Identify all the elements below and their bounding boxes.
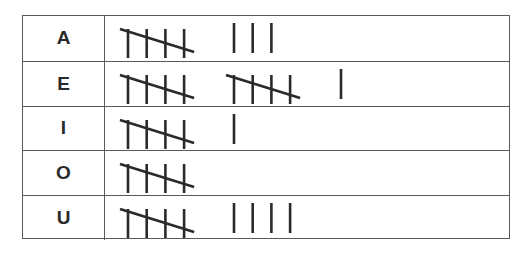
table-row: U — [23, 195, 509, 240]
row-label: A — [23, 16, 105, 61]
table-row: I — [23, 106, 509, 151]
tally-icon — [105, 107, 509, 151]
row-label: E — [23, 62, 105, 106]
table-row: O — [23, 150, 509, 195]
tally-icon — [105, 62, 509, 106]
tally-marks — [105, 16, 509, 61]
table-row: E — [23, 61, 509, 106]
tally-icon — [105, 196, 509, 240]
tally-icon — [105, 151, 509, 195]
row-label: O — [23, 151, 105, 195]
tally-marks — [105, 151, 509, 195]
row-label: I — [23, 107, 105, 151]
row-label: U — [23, 196, 105, 240]
table-row: A — [23, 16, 509, 61]
tally-marks — [105, 196, 509, 240]
tally-icon — [105, 16, 509, 61]
tally-marks — [105, 62, 509, 106]
tally-table: A E I O U — [22, 15, 510, 239]
tally-marks — [105, 107, 509, 151]
